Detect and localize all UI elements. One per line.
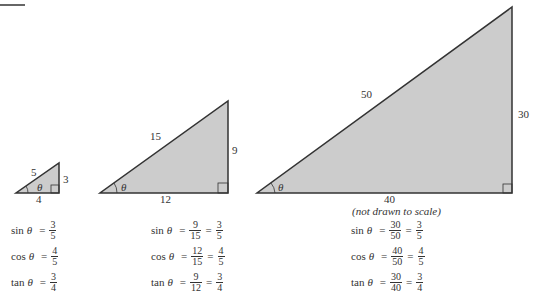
large-opposite-label: 30 — [518, 109, 529, 120]
large-angle-label: θ — [278, 182, 283, 193]
large-tan-equation: tanθ = 3040 = 34 — [351, 270, 423, 294]
medium-cos-equation: cosθ = 1215 = 45 — [151, 244, 225, 268]
medium-hypotenuse-label: 15 — [150, 131, 161, 142]
medium-sin-equation: sinθ = 915 = 35 — [151, 218, 223, 242]
medium-tan-equation: tanθ = 912 = 34 — [151, 270, 223, 294]
small-angle-label: θ — [37, 182, 42, 193]
small-cos-equation: cosθ = 45 — [11, 244, 58, 268]
small-opposite-label: 3 — [63, 174, 69, 185]
small-hypotenuse-label: 5 — [31, 167, 37, 178]
medium-angle-label: θ — [121, 182, 126, 193]
large-sin-equation: sinθ = 3050 = 35 — [351, 218, 423, 242]
large-hypotenuse-label: 50 — [361, 89, 372, 100]
large-adjacent-label: 40 — [384, 194, 395, 205]
small-sin-equation: sinθ = 35 — [11, 218, 56, 242]
small-tan-equation: tanθ = 34 — [11, 270, 57, 294]
large-cos-equation: cosθ = 4050 = 45 — [351, 244, 425, 268]
small-adjacent-label: 4 — [36, 194, 42, 205]
medium-adjacent-label: 12 — [160, 194, 171, 205]
not-to-scale-note: (not drawn to scale) — [352, 205, 441, 217]
triangles-drawing — [0, 0, 541, 301]
large-triangle — [257, 7, 512, 193]
medium-triangle — [100, 101, 228, 193]
medium-opposite-label: 9 — [232, 145, 238, 156]
